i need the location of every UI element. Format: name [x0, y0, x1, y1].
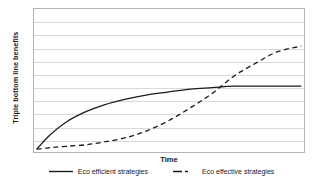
plot-area — [33, 8, 305, 153]
legend-swatch-solid-icon — [48, 168, 74, 175]
series-line-eco-efficient-strategies — [37, 86, 302, 149]
y-axis-title: Triple bottom line benefits — [0, 0, 33, 155]
x-axis-title: Time — [33, 155, 305, 164]
series-line-eco-effective-strategies — [37, 46, 302, 149]
series-layer — [34, 9, 304, 152]
chart-legend: Eco efficient strategies Eco effective s… — [0, 168, 322, 175]
chart-figure: Triple bottom line benefits Time Eco eff… — [0, 0, 322, 188]
legend-label: Eco efficient strategies — [78, 168, 148, 175]
legend-item-eco-effective-strategies: Eco effective strategies — [172, 168, 274, 175]
legend-label: Eco effective strategies — [202, 168, 274, 175]
legend-item-eco-efficient-strategies: Eco efficient strategies — [48, 168, 148, 175]
legend-swatch-dashed-icon — [172, 168, 198, 175]
y-axis-title-text: Triple bottom line benefits — [13, 31, 20, 123]
